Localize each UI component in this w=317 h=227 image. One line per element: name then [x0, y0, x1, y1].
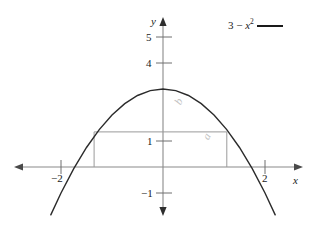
x-axis-label: x — [293, 175, 298, 186]
legend: 3 − x2 — [228, 20, 283, 31]
legend-line-swatch — [257, 25, 283, 27]
parabola-figure: 5 4 1 −1 −2 2 y x b a 3 − x2 — [0, 0, 317, 227]
x-axis-left-arrow — [14, 163, 23, 170]
y-tick-label-1: 1 — [147, 136, 153, 147]
y-tick-label-4: 4 — [146, 58, 152, 69]
y-axis-label: y — [151, 16, 156, 27]
x-axis-right-arrow — [294, 163, 303, 170]
y-tick-label-5: 5 — [146, 32, 152, 43]
legend-exponent: 2 — [250, 17, 254, 26]
y-tick-label-neg1: −1 — [141, 188, 153, 199]
y-axis-top-arrow — [159, 17, 166, 26]
y-axis-bottom-arrow — [159, 207, 166, 216]
plot-canvas — [0, 0, 317, 227]
x-tick-label-neg2: −2 — [51, 173, 63, 184]
legend-label: 3 − x2 — [228, 20, 254, 31]
legend-prefix: 3 − — [228, 19, 245, 31]
x-tick-label-2: 2 — [262, 173, 268, 184]
